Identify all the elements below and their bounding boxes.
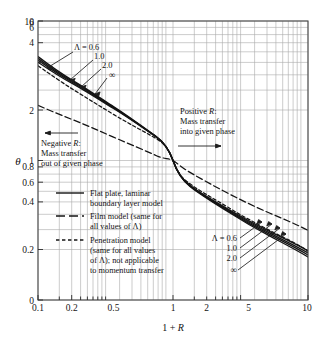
legend-penetration-line4: to momentum transfer: [90, 266, 164, 275]
x-tick-label: 0.5: [108, 303, 120, 313]
lambda-label-upper-inf: ∞: [109, 70, 115, 80]
y-axis-title: θ: [15, 155, 21, 167]
legend-flat-plate-line2: boundary layer model: [90, 199, 163, 208]
lambda-label-upper-1-0: 1.0: [94, 52, 104, 61]
negative-r-line1: Negative R:: [41, 139, 81, 148]
y-tick-label: 0.6: [22, 178, 34, 188]
y-tick-label-8: 6: [29, 23, 34, 33]
lambda-label-lower-0-6: Λ = 0.6: [212, 234, 237, 243]
lambda-label-lower-1-0: 1.0: [227, 244, 237, 253]
figure-background: [0, 0, 328, 343]
lambda-label-lower-inf: ∞: [231, 265, 237, 275]
x-tick-label: 5: [246, 303, 251, 313]
positive-r-line3: into given phase: [180, 127, 235, 136]
y-tick-label: 0.4: [22, 197, 34, 207]
legend-penetration-line2: (same for all values: [90, 246, 155, 255]
y-tick-label: 1: [29, 156, 34, 166]
lambda-label-upper-0-6: Λ = 0.6: [74, 43, 99, 52]
loglog-plot: 0.1 0.2 0.5 1 2 5 10 0 0.2 0.4 0.6 0.8 1…: [0, 0, 328, 343]
x-tick-label: 10: [302, 303, 312, 313]
legend-film-model-line2: all values of Λ): [90, 222, 142, 231]
legend-film-model-line1: Film model (same for: [90, 212, 162, 221]
legend-flat-plate-line1: Flat plate, laminar: [90, 189, 151, 198]
x-tick-label: 2: [204, 303, 209, 313]
y-tick-label: 2: [29, 106, 34, 116]
y-tick-label: 0: [29, 296, 34, 306]
legend-penetration-line3: of Λ); not applicable: [90, 256, 159, 265]
y-tick-label: 0.2: [22, 245, 34, 255]
chart-figure: 0.1 0.2 0.5 1 2 5 10 0 0.2 0.4 0.6 0.8 1…: [0, 0, 328, 343]
y-tick-label: 4: [29, 38, 34, 48]
negative-r-line3: out of given phase: [41, 159, 103, 168]
lambda-label-lower-2-0: 2.0: [227, 254, 237, 263]
x-axis-title: 1 + R: [162, 322, 184, 333]
x-tick-label: 0.2: [66, 303, 78, 313]
legend-penetration-line1: Penetration model: [90, 236, 151, 245]
negative-r-line2: Mass transfer: [41, 149, 87, 158]
x-tick-label: 1: [171, 303, 176, 313]
positive-r-line2: Mass transfer: [180, 117, 226, 126]
positive-r-line1: Positive R:: [180, 107, 217, 116]
y-tick-labels-extra: 6: [29, 23, 34, 33]
lambda-label-upper-2-0: 2.0: [102, 61, 112, 70]
